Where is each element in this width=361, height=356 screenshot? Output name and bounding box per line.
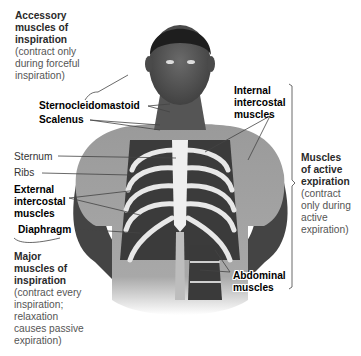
- accessory-group-label: Accessory muscles of inspiration (contra…: [15, 10, 80, 82]
- label-external-intercostal: External intercostal muscles: [14, 184, 66, 220]
- major-group-label: Major muscles of inspiration (contract e…: [14, 251, 84, 347]
- label-scalenus: Scalenus: [39, 114, 84, 126]
- right-ear: [207, 56, 215, 72]
- label-internal-intercostal: Internal intercostal muscles: [234, 85, 286, 121]
- label-sternum: Sternum: [14, 151, 53, 163]
- left-ear: [145, 56, 153, 72]
- label-ribs: Ribs: [14, 167, 34, 179]
- label-diaphragm: Diaphragm: [18, 224, 71, 236]
- label-abdominal-muscles: Abdominal muscles: [233, 270, 286, 294]
- active-expiration-group-label: Muscles of active expiration (contract o…: [301, 152, 351, 236]
- sternum: [172, 140, 188, 232]
- spine: [175, 232, 185, 300]
- label-sternocleidomastoid: Sternocleidomastoid: [39, 100, 140, 112]
